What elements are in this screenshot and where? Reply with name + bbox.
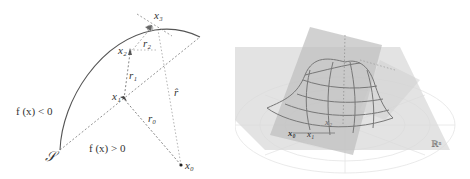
right-diagram-svg xyxy=(235,0,470,179)
label-x1: x₁ xyxy=(307,130,314,139)
label-r0: r₀ xyxy=(148,113,156,124)
right-diagram-panel: x₀ x₁ x₂ ℝⁿ xyxy=(235,0,470,179)
point-x0 xyxy=(179,163,182,166)
ray-r0 xyxy=(124,99,181,165)
label-r-hat: r̂ xyxy=(174,87,178,98)
point-x2-arrow xyxy=(128,48,132,55)
label-r2: r₂ xyxy=(143,38,151,49)
label-x1: x₁ xyxy=(112,91,121,102)
label-x2: x₂ xyxy=(325,118,332,127)
label-x0: x₀ xyxy=(185,160,194,171)
label-f-negative: f (x) < 0 xyxy=(16,106,52,117)
label-x3: x₃ xyxy=(154,10,163,21)
label-x2: x₂ xyxy=(118,45,127,56)
label-surface: 𝒮 xyxy=(45,150,56,164)
label-f-positive: f (x) > 0 xyxy=(89,143,125,154)
left-diagram-panel: x₃ x₂ x₁ x₀ r₂ r₁ r₀ r̂ f (x) < 0 f (x) … xyxy=(0,0,235,179)
label-space-rn: ℝⁿ xyxy=(431,140,441,149)
label-r1: r₁ xyxy=(129,70,137,81)
boundary-curve xyxy=(60,29,200,150)
label-x0: x₀ xyxy=(288,129,296,138)
